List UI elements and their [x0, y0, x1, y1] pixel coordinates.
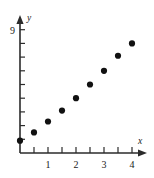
- x-axis-label: x: [137, 136, 143, 146]
- data-point: [31, 129, 37, 135]
- x-axis-ticks: [34, 147, 132, 153]
- data-point: [59, 107, 65, 113]
- data-point: [73, 95, 79, 101]
- x-axis-tick-label-2: 2: [74, 159, 79, 170]
- data-point: [115, 53, 121, 59]
- plot-canvas: 9 1 2 3 4 y x: [0, 0, 154, 178]
- data-point: [101, 68, 107, 74]
- x-axis-tick-label-1: 1: [46, 159, 51, 170]
- data-point: [17, 138, 23, 144]
- data-point: [87, 81, 93, 87]
- y-axis-label: y: [26, 13, 32, 23]
- scatter-plot-figure: 9 1 2 3 4 y x: [0, 0, 154, 178]
- y-axis-arrow-icon: [16, 15, 23, 24]
- data-point: [45, 118, 51, 124]
- x-axis-arrow-icon: [138, 149, 147, 156]
- x-axis-tick-label-3: 3: [102, 159, 107, 170]
- y-axis-tick-label-9: 9: [10, 25, 15, 36]
- x-axis-tick-label-4: 4: [130, 159, 135, 170]
- data-point: [129, 40, 135, 46]
- data-point-series: [17, 40, 135, 143]
